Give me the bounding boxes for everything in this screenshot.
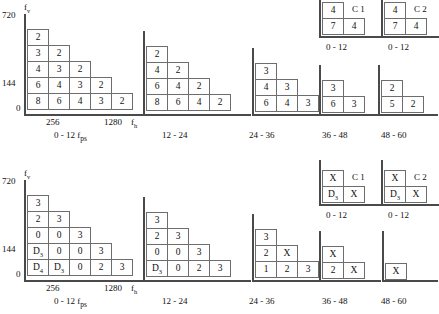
panel-bottom-36-48: X2X [319, 231, 381, 290]
y-axis-title-bottom: fv [24, 168, 30, 180]
panel-top-36-48: 363 [319, 65, 381, 124]
x-axis-line-bottom-12-24 [143, 280, 251, 282]
grid-cell: 2 [402, 96, 424, 113]
cell-row: 74 [384, 18, 426, 34]
y-axis-line-bottom-48-60 [382, 231, 384, 280]
grid-cell: 0 [69, 259, 91, 276]
cell-row: 432 [27, 61, 132, 77]
cell-grid-bottom-24-36: 32X123 [255, 229, 318, 277]
caption-bottom-c2: 0 - 12 [388, 210, 409, 220]
cell-row: X [322, 246, 364, 262]
grid-cell: 3 [188, 244, 210, 261]
cell-row: 63 [322, 96, 364, 112]
y-tick-144-top: 144 [2, 78, 16, 88]
grid-cell: 6 [167, 94, 189, 111]
x-axis-line-bottom-48-60 [382, 280, 438, 282]
grid-cell: 3 [255, 229, 277, 246]
cell-row: 2 [381, 80, 423, 96]
x-tick-256-bottom: 256 [46, 283, 60, 293]
grid-cell: 3 [90, 93, 112, 110]
grid-cell: 3 [297, 95, 319, 112]
cell-row: 8642 [146, 94, 230, 110]
grid-cell: 1 [255, 261, 277, 278]
grid-cell: 0 [167, 260, 189, 277]
cell-row: D3023 [146, 260, 230, 276]
caption-bottom-0-12: 0 - 12 fps [54, 296, 87, 309]
grid-cell: 3 [27, 45, 49, 62]
x-axis-line-top-48-60 [378, 114, 438, 116]
panel-bottom-12-24: 323003D3023 [143, 197, 251, 290]
grid-cell: 2 [209, 94, 231, 111]
grid-cell: X [276, 245, 298, 262]
y-tick-144-bottom: 144 [2, 244, 16, 254]
x-axis-line-top-12-24 [143, 114, 251, 116]
panel-top-0-12: 232432643286432 [24, 14, 144, 124]
panel-bottom-c1: XD3X [319, 160, 381, 210]
cell-row: 123 [255, 261, 318, 277]
panel-top-c1: 474 [319, 0, 381, 42]
grid-cell: X [384, 170, 406, 187]
grid-cell: 2 [146, 228, 168, 245]
caption-top-c2: 0 - 12 [388, 42, 409, 52]
grid-cell: 0 [48, 227, 70, 244]
caption-top-c1: 0 - 12 [326, 42, 347, 52]
y-tick-0-top: 0 [16, 103, 21, 113]
cell-row: 32 [27, 45, 132, 61]
grid-cell: 2 [146, 46, 168, 63]
grid-cell: 3 [322, 80, 344, 97]
grid-cell: 5 [381, 96, 403, 113]
y-axis-line-bottom-12-24 [143, 197, 145, 280]
grid-cell: 3 [90, 243, 112, 260]
caption-bottom-48-60: 48 - 60 [381, 296, 407, 306]
grid-cell: 2 [48, 45, 70, 62]
cell-row: 2X [255, 245, 318, 261]
cell-row: 86432 [27, 93, 132, 109]
inset-label-bottom-c2: C 2 [414, 172, 427, 182]
grid-cell: X [322, 170, 344, 187]
grid-cell: 2 [90, 259, 112, 276]
cell-row: 642 [146, 78, 230, 94]
cell-row: 003 [27, 227, 132, 243]
cell-grid-bottom-48-60: X [385, 263, 406, 279]
y-tick-720-bottom: 720 [2, 176, 16, 186]
grid-cell: 3 [146, 212, 168, 229]
y-axis-line-bottom [24, 180, 26, 280]
cell-grid-top-24-36: 343643 [255, 63, 318, 111]
grid-cell: 4 [405, 18, 427, 35]
grid-cell: 0 [69, 243, 91, 260]
panel-bottom-c2: XD3X [381, 160, 439, 210]
x-axis-title-bottom: fh [131, 283, 137, 295]
cell-row: 3 [255, 229, 318, 245]
cell-grid-top-0-12: 232432643286432 [27, 29, 132, 109]
grid-cell: 2 [90, 77, 112, 94]
panel-bottom-48-60: X [382, 231, 438, 290]
inset-label-top-c2: C 2 [414, 4, 427, 14]
panel-top-12-24: 2426428642 [143, 31, 251, 124]
x-axis-line-bottom [24, 280, 144, 282]
y-axis-line-top-36-48 [319, 65, 321, 114]
cell-row: 74 [322, 18, 364, 34]
grid-cell: X [322, 246, 344, 263]
grid-cell: 0 [167, 244, 189, 261]
y-axis-line-bottom-c2 [381, 160, 383, 204]
grid-cell: 6 [48, 93, 70, 110]
panel-top-48-60: 252 [378, 65, 438, 124]
grid-cell: D3 [322, 186, 344, 203]
y-axis-line-top-24-36 [252, 48, 254, 114]
y-axis-line-bottom-36-48 [319, 231, 321, 280]
grid-cell: 0 [146, 244, 168, 261]
x-axis-title-top: fh [131, 117, 137, 129]
caption-bottom-24-36: 24 - 36 [249, 296, 275, 306]
grid-cell: 8 [146, 94, 168, 111]
inset-label-top-c1: C 1 [352, 4, 365, 14]
grid-cell: 3 [209, 260, 231, 277]
grid-cell: 0 [27, 227, 49, 244]
grid-cell: 2 [255, 245, 277, 262]
grid-cell: 4 [48, 77, 70, 94]
grid-cell: 4 [69, 93, 91, 110]
x-axis-line-top-36-48 [319, 114, 381, 116]
cell-row: 2X [322, 262, 364, 278]
cell-grid-bottom-0-12: 323003D3003D4D3023 [27, 195, 132, 275]
grid-cell: 6 [146, 78, 168, 95]
x-axis-line-bottom-c1 [319, 204, 381, 206]
